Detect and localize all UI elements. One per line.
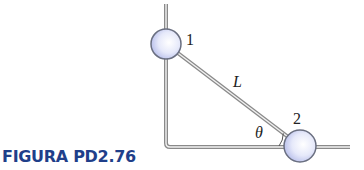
figure-caption: FIGURA PD2.76	[2, 147, 136, 166]
ball-2	[284, 130, 316, 162]
angle-label: θ	[255, 124, 263, 141]
rod-label: L	[232, 73, 242, 90]
ball-1	[151, 29, 181, 59]
ball-1-label: 1	[186, 31, 194, 48]
diagram: 1 2 L θ	[0, 0, 364, 170]
rod	[166, 44, 300, 146]
ball-2-label: 2	[293, 110, 301, 127]
